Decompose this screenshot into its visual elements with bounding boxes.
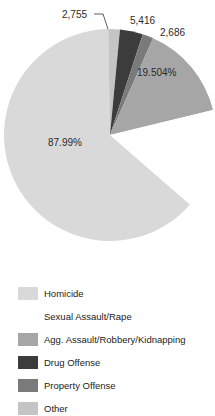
legend-item-homicide: Homicide: [18, 282, 186, 305]
swatch-other: [18, 402, 38, 415]
legend: Homicide Sexual Assault/Rape Agg. Assaul…: [18, 282, 186, 416]
swatch-homicide: [18, 287, 38, 300]
legend-item-sexual-assault: Sexual Assault/Rape: [18, 305, 186, 328]
swatch-sexual-assault: [18, 310, 38, 323]
legend-item-other: Other: [18, 397, 186, 416]
swatch-property-offense: [18, 379, 38, 392]
legend-label: Agg. Assault/Robbery/Kidnapping: [44, 334, 186, 345]
swatch-agg-assault: [18, 333, 38, 346]
legend-label: Drug Offense: [44, 357, 100, 368]
legend-label: Other: [44, 403, 68, 414]
leader-line-other: [94, 14, 108, 29]
pie-slices: [4, 29, 215, 241]
legend-label: Sexual Assault/Rape: [44, 311, 132, 322]
pie-chart: 2,7555,4162,68619.504%87.99%: [0, 0, 215, 260]
legend-item-agg-assault: Agg. Assault/Robbery/Kidnapping: [18, 328, 186, 351]
slice-label: 87.99%: [48, 137, 82, 148]
legend-item-drug-offense: Drug Offense: [18, 351, 186, 374]
slice-label: 19.504%: [137, 67, 177, 78]
swatch-drug-offense: [18, 356, 38, 369]
slice-label: 5,416: [130, 15, 155, 26]
legend-item-property-offense: Property Offense: [18, 374, 186, 397]
slice-label: 2,686: [160, 27, 185, 38]
slice-label: 2,755: [62, 9, 87, 20]
legend-label: Property Offense: [44, 380, 116, 391]
legend-label: Homicide: [44, 288, 84, 299]
